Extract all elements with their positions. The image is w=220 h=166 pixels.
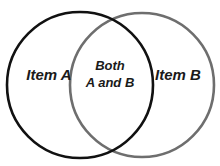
intersection-label: Both A and B [84, 57, 136, 91]
set-a-label: Item A [14, 66, 84, 83]
venn-diagram: Item A Both A and B Item B [0, 0, 220, 166]
intersection-line-1: Both [84, 57, 136, 74]
set-b-label: Item B [144, 66, 212, 83]
intersection-line-2: A and B [84, 74, 136, 91]
